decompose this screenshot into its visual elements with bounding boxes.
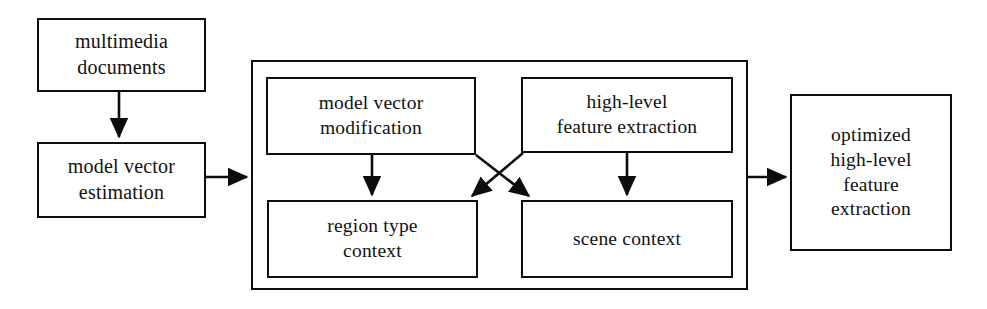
- node-label-line: model vector: [319, 91, 424, 116]
- node-region-type-context: region type context: [267, 200, 478, 278]
- node-label-line: multimedia: [75, 29, 168, 55]
- node-label-line: optimized: [831, 123, 911, 148]
- node-label-line: high-level: [830, 148, 911, 173]
- node-multimedia-documents: multimedia documents: [37, 18, 206, 92]
- diagram-canvas: multimedia documents model vector estima…: [0, 0, 987, 309]
- node-label-line: feature: [843, 173, 899, 198]
- node-label-line: feature extraction: [557, 115, 698, 140]
- node-label-line: model vector: [68, 154, 175, 180]
- node-label-line: modification: [320, 116, 422, 141]
- node-optimized-high-level-feature-extraction: optimized high-level feature extraction: [790, 94, 952, 251]
- node-label-line: high-level: [586, 90, 667, 115]
- node-model-vector-modification: model vector modification: [266, 77, 476, 155]
- node-label-line: region type: [327, 214, 417, 239]
- node-label-line: documents: [77, 55, 165, 81]
- node-label-line: scene context: [573, 227, 681, 252]
- node-label-line: estimation: [79, 180, 164, 206]
- node-label-line: context: [343, 239, 402, 264]
- node-label-line: extraction: [831, 197, 911, 222]
- node-scene-context: scene context: [521, 200, 733, 278]
- node-model-vector-estimation: model vector estimation: [37, 142, 206, 218]
- node-high-level-feature-extraction: high-level feature extraction: [521, 77, 733, 153]
